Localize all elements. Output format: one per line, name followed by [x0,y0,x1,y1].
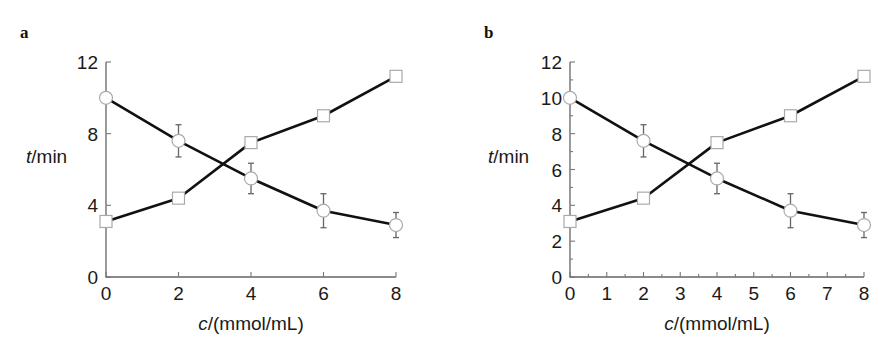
series-line-circles [106,98,396,225]
x-tick-label: 8 [859,283,870,304]
x-tick-label: 4 [246,283,257,304]
square-marker [390,70,402,82]
x-tick-label: 8 [391,283,402,304]
circle-marker [637,134,650,147]
square-marker [564,215,576,227]
square-marker [858,70,870,82]
circle-marker [711,172,724,185]
y-axis-title: t/min [26,146,67,167]
x-tick-label: 4 [712,283,723,304]
x-tick-label: 2 [638,283,649,304]
y-tick-label: 12 [541,52,562,73]
x-tick-label: 6 [785,283,796,304]
x-tick-label: 1 [601,283,612,304]
square-marker [638,192,650,204]
x-tick-label: 0 [101,283,112,304]
circle-marker [245,172,258,185]
square-marker [711,137,723,149]
x-tick-label: 2 [173,283,184,304]
chart-panel-a: a0481202468t/minc/(mmol/mL) [20,23,403,334]
y-tick-label: 12 [77,52,98,73]
y-tick-label: 2 [551,231,562,252]
square-marker [318,110,330,122]
circle-marker [100,91,113,104]
square-marker [173,192,185,204]
y-tick-label: 8 [551,124,562,145]
panel-label: b [484,23,493,42]
y-axis-title: t/min [488,146,529,167]
y-tick-label: 4 [551,195,562,216]
figure: a0481202468t/minc/(mmol/mL) b02468101201… [0,0,894,355]
y-tick-label: 0 [551,267,562,288]
x-tick-label: 0 [565,283,576,304]
panel-label: a [20,23,29,42]
y-tick-label: 6 [551,160,562,181]
circle-marker [317,204,330,217]
y-tick-label: 8 [87,124,98,145]
circle-marker [858,219,871,232]
x-tick-label: 3 [675,283,686,304]
circle-marker [390,219,403,232]
square-marker [245,137,257,149]
x-tick-label: 6 [318,283,329,304]
y-tick-label: 10 [541,88,562,109]
square-marker [785,110,797,122]
x-axis-title: c/(mmol/mL) [198,313,304,334]
circle-marker [172,134,185,147]
chart-panel-b: b024681012012345678t/minc/(mmol/mL) [484,23,871,334]
x-tick-label: 7 [822,283,833,304]
x-tick-label: 5 [748,283,759,304]
y-tick-label: 0 [87,267,98,288]
circle-marker [784,204,797,217]
y-tick-label: 4 [87,195,98,216]
square-marker [100,215,112,227]
series-line-circles [570,98,864,225]
x-axis-title: c/(mmol/mL) [664,313,770,334]
circle-marker [564,91,577,104]
